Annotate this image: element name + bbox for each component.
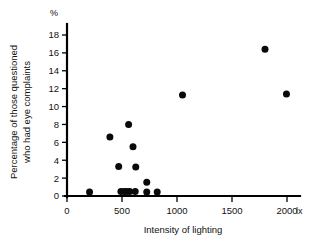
x-axis-unit-label: lx: [296, 206, 303, 216]
y-tick-label-0: 0: [54, 190, 59, 201]
x-tick-label-0: 0: [64, 205, 69, 216]
y-tick-label-4: 4: [54, 155, 59, 166]
data-point: [132, 188, 139, 195]
y-tick-label-2: 2: [54, 173, 59, 184]
data-point: [262, 46, 269, 53]
x-axis-title: Intensity of lighting: [144, 224, 223, 235]
y-axis-unit-label: %: [50, 8, 58, 18]
scatter-chart: 024681012141618 0500100015002000 % lx In…: [0, 0, 314, 244]
y-axis-title-line2: who had eye complaints: [21, 61, 32, 164]
data-point-group: [86, 46, 290, 196]
x-axis-tick-labels: 0500100015002000: [64, 205, 297, 216]
data-point: [125, 121, 132, 128]
data-point: [143, 188, 150, 195]
data-point: [130, 143, 137, 150]
y-tick-label-6: 6: [54, 137, 59, 148]
data-point: [154, 188, 161, 195]
y-axis-title-line1: Percentage of those questioned: [8, 45, 19, 179]
x-tick-label-2000: 2000: [276, 205, 297, 216]
y-tick-label-18: 18: [48, 29, 59, 40]
data-point: [143, 179, 150, 186]
y-tick-label-14: 14: [48, 65, 59, 76]
y-axis-tick-labels: 024681012141618: [48, 29, 59, 201]
data-point: [179, 91, 186, 98]
y-tick-label-8: 8: [54, 119, 59, 130]
y-tick-label-10: 10: [48, 101, 59, 112]
x-tick-label-500: 500: [114, 205, 130, 216]
x-tick-label-1000: 1000: [166, 205, 187, 216]
data-point: [132, 163, 139, 170]
data-point: [115, 163, 122, 170]
y-tick-label-16: 16: [48, 47, 59, 58]
y-tick-label-12: 12: [48, 83, 59, 94]
data-point: [283, 91, 290, 98]
x-tick-label-1500: 1500: [221, 205, 242, 216]
plot-area: 024681012141618 0500100015002000 % lx In…: [0, 0, 314, 244]
data-point: [86, 188, 93, 195]
data-point: [106, 133, 113, 140]
